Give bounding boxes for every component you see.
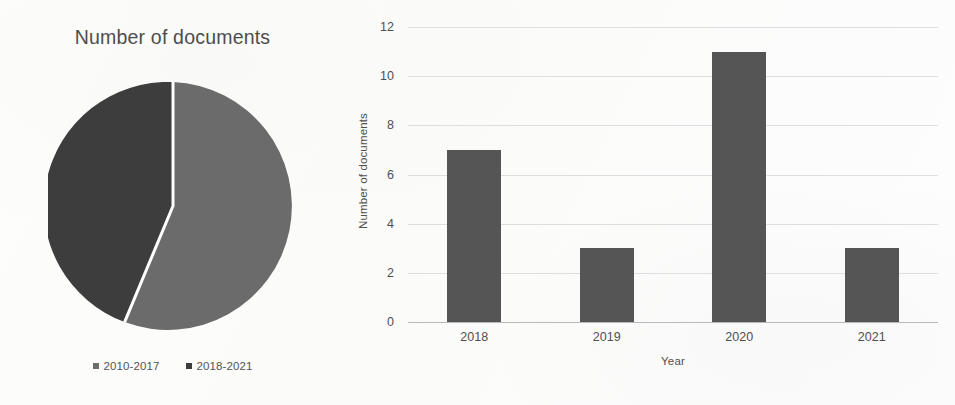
x-tick-label-2020: 2020 [725, 330, 753, 344]
bar-chart-figure: Number of documents 024681012 2018201920… [336, 0, 955, 405]
legend-swatch-icon-2018-2021 [186, 363, 192, 369]
legend-item-2018-2021[interactable]: 2018-2021 [186, 360, 253, 372]
legend-swatch-icon-2010-2017 [93, 363, 99, 369]
legend-label-2018-2021: 2018-2021 [197, 360, 253, 372]
y-tick-label-8: 8 [338, 118, 394, 132]
bar-chart-x-axis-title: Year [408, 355, 938, 367]
pie-chart-figure: Number of documents 2010-2017 2018-2021 [0, 0, 345, 405]
bar-2020[interactable] [712, 52, 766, 322]
legend-item-2010-2017[interactable]: 2010-2017 [93, 360, 160, 372]
gridline-y-0 [408, 322, 938, 323]
x-tick-label-2021: 2021 [858, 330, 886, 344]
pie-chart-plot-area [48, 82, 298, 332]
y-tick-label-0: 0 [338, 315, 394, 329]
pie-chart-svg [48, 82, 298, 332]
y-tick-label-10: 10 [338, 69, 394, 83]
gridline-y-8 [408, 125, 938, 126]
pie-chart-title: Number of documents [0, 26, 345, 49]
gridline-y-10 [408, 76, 938, 77]
bar-2021[interactable] [845, 248, 899, 322]
x-tick-label-2018: 2018 [460, 330, 488, 344]
y-tick-label-12: 12 [338, 20, 394, 34]
bar-2019[interactable] [580, 248, 634, 322]
bar-chart-plot-area [408, 27, 938, 322]
y-tick-label-4: 4 [338, 217, 394, 231]
y-tick-label-2: 2 [338, 266, 394, 280]
bar-chart-x-axis-tick-labels: 2018201920202021 [408, 330, 938, 350]
gridline-y-12 [408, 27, 938, 28]
y-tick-label-6: 6 [338, 168, 394, 182]
legend-label-2010-2017: 2010-2017 [104, 360, 160, 372]
bar-2018[interactable] [447, 150, 501, 322]
pie-chart-legend: 2010-2017 2018-2021 [0, 360, 345, 372]
bar-chart-y-axis-tick-labels: 024681012 [336, 0, 402, 405]
x-tick-label-2019: 2019 [593, 330, 621, 344]
